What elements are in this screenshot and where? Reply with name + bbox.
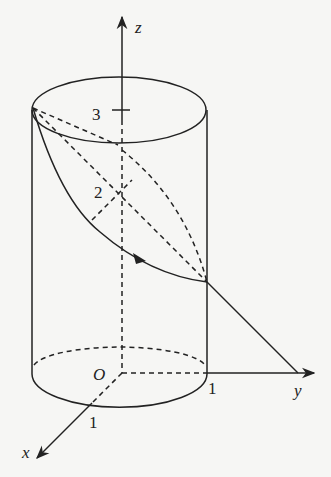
- z-label: z: [134, 18, 142, 37]
- bottom-ellipse-back: [34, 347, 205, 365]
- diagram-canvas: z 3 2 O 1 y 1 x: [0, 0, 331, 477]
- bottom-ellipse-front: [32, 374, 207, 407]
- line-to-y: [207, 282, 298, 373]
- z-tick-2-label: 2: [94, 183, 103, 202]
- dashed-chord-top: [33, 108, 118, 145]
- cylinder-diagram: z 3 2 O 1 y 1 x: [0, 0, 331, 477]
- y-label: y: [292, 381, 302, 400]
- x-axis: [37, 403, 92, 458]
- z-tick-3-label: 3: [92, 105, 101, 124]
- dashed-diagonal-1: [33, 108, 207, 282]
- dashed-back-curve: [122, 150, 207, 282]
- x-label: x: [21, 443, 30, 462]
- origin-label: O: [93, 365, 105, 384]
- y-tick-1-label: 1: [208, 379, 217, 398]
- x-tick-1-label: 1: [89, 413, 98, 432]
